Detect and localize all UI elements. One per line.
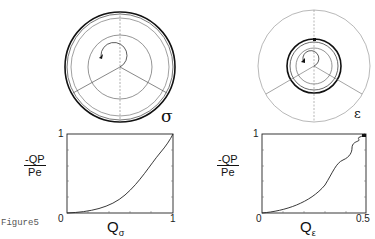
sigma-y-axis-label: -QP Pe (24, 153, 46, 178)
epsilon-y-axis-label: -QP Pe (217, 153, 239, 178)
sigma-x-label-sub: σ (119, 228, 125, 238)
epsilon-x-label-sub: ε (312, 228, 316, 238)
epsilon-line-chart (262, 134, 366, 213)
epsilon-x-label-main: Q (300, 218, 312, 235)
sigma-x-tick-max: 1 (170, 213, 176, 224)
figure-label: Figure5 (1, 218, 39, 228)
epsilon-x-tick-max: 0.5 (356, 213, 370, 224)
sigma-y-tick-max: 1 (58, 128, 64, 139)
sigma-polar-diagram (65, 12, 175, 122)
sigma-y-label-numerator: -QP (24, 153, 46, 166)
sigma-x-axis-label: Qσ (107, 218, 124, 238)
sigma-symbol: σ (161, 106, 173, 126)
figure-graphics (0, 0, 375, 239)
epsilon-y-label-denominator: Pe (217, 166, 239, 178)
sigma-x-label-main: Q (107, 218, 119, 235)
epsilon-x-tick-min: 0 (256, 213, 262, 224)
epsilon-y-label-numerator: -QP (217, 153, 239, 166)
sigma-line-chart (67, 134, 173, 213)
sigma-y-label-denominator: Pe (24, 166, 46, 178)
epsilon-symbol: ε (354, 106, 361, 121)
epsilon-x-axis-label: Qε (300, 218, 316, 238)
epsilon-y-tick-max: 1 (253, 128, 259, 139)
sigma-x-tick-min: 0 (58, 213, 64, 224)
